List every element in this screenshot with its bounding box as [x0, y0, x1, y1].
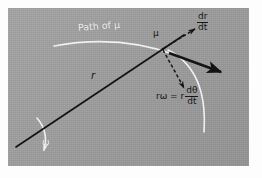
radial-velocity-label: dr dt	[197, 12, 208, 32]
radial-velocity-fraction: dr dt	[197, 12, 208, 32]
tangential-lead: rω = r	[156, 92, 184, 101]
particle-marker	[162, 48, 165, 51]
tangential-numerator: dθ	[185, 86, 198, 95]
tangential-equation: rω = r dθ dt	[156, 86, 198, 106]
radius-label: r	[91, 71, 95, 81]
resultant-velocity-arrow	[169, 53, 221, 72]
tangential-velocity-label: rω = r dθ dt	[156, 86, 198, 106]
tangential-velocity-fraction: dθ dt	[185, 86, 198, 106]
particle-label: μ	[153, 29, 159, 38]
figure-canvas: Path of μ μ r ω dr dt rω = r dθ dt	[0, 0, 262, 178]
radial-velocity-numerator: dr	[197, 12, 208, 21]
radial-velocity-denominator: dt	[197, 23, 208, 32]
tangential-denominator: dt	[186, 97, 197, 106]
angular-velocity-label: ω	[42, 138, 50, 147]
